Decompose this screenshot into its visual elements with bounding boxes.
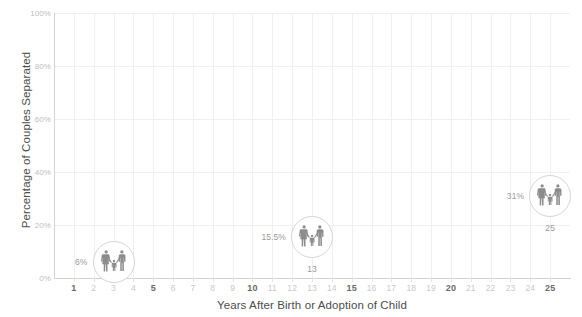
data-point-percentage-label: 15.5% xyxy=(261,232,286,242)
x-axis-tick-mark xyxy=(292,278,293,282)
gridline-vertical xyxy=(491,13,492,278)
gridline-vertical xyxy=(193,13,194,278)
x-axis-tick-mark xyxy=(352,278,353,282)
x-axis-tick-mark xyxy=(252,278,253,282)
x-axis-tick-mark xyxy=(451,278,452,282)
x-axis-tick-mark xyxy=(491,278,492,282)
x-axis-tick-mark xyxy=(411,278,412,282)
gridline-vertical xyxy=(372,13,373,278)
x-axis-tick-mark xyxy=(173,278,174,282)
gridline-vertical xyxy=(74,13,75,278)
gridline-vertical xyxy=(471,13,472,278)
scatter-chart: Percentage of Couples Separated 0%20%40%… xyxy=(0,0,582,317)
x-axis-tick-mark xyxy=(471,278,472,282)
data-point-marker[interactable] xyxy=(291,216,333,258)
family-icon xyxy=(99,248,128,277)
data-point-year-label: 13 xyxy=(307,264,317,274)
x-axis-tick-mark xyxy=(550,278,551,282)
x-axis-tick-label: 25 xyxy=(538,283,562,293)
gridline-vertical xyxy=(550,13,551,278)
x-axis-tick-mark xyxy=(530,278,531,282)
x-axis-tick-mark xyxy=(233,278,234,282)
gridline-vertical xyxy=(352,13,353,278)
y-axis-tick-labels: 0%20%40%60%80%100% xyxy=(0,0,51,317)
x-axis-tick-mark xyxy=(431,278,432,282)
gridline-vertical xyxy=(153,13,154,278)
data-point-year-label: 25 xyxy=(545,223,555,233)
gridline-vertical xyxy=(173,13,174,278)
family-icon xyxy=(536,181,565,210)
x-axis-tick-mark xyxy=(312,278,313,282)
y-axis-tick-label: 80% xyxy=(3,62,51,71)
x-axis-tick-mark xyxy=(133,278,134,282)
gridline-vertical xyxy=(133,13,134,278)
data-point-percentage-label: 31% xyxy=(507,191,524,201)
gridline-vertical xyxy=(233,13,234,278)
gridline-vertical xyxy=(451,13,452,278)
gridline-vertical xyxy=(510,13,511,278)
gridline-horizontal xyxy=(54,172,570,173)
gridline-vertical xyxy=(431,13,432,278)
gridline-vertical xyxy=(213,13,214,278)
x-axis-tick-mark xyxy=(74,278,75,282)
gridline-vertical xyxy=(411,13,412,278)
gridline-vertical xyxy=(94,13,95,278)
x-axis-tick-mark xyxy=(510,278,511,282)
y-axis-tick-label: 20% xyxy=(3,221,51,230)
gridline-vertical xyxy=(391,13,392,278)
x-axis-tick-mark xyxy=(332,278,333,282)
y-axis-tick-label: 40% xyxy=(3,168,51,177)
y-axis-tick-label: 100% xyxy=(3,9,51,18)
gridline-horizontal xyxy=(54,119,570,120)
data-point-marker[interactable] xyxy=(93,241,135,283)
family-icon xyxy=(298,222,327,251)
y-axis-tick-label: 0% xyxy=(3,274,51,283)
x-axis-tick-mark xyxy=(193,278,194,282)
x-axis-tick-mark xyxy=(391,278,392,282)
x-axis-tick-mark xyxy=(213,278,214,282)
gridline-vertical xyxy=(530,13,531,278)
chart-title xyxy=(0,0,582,4)
data-point-marker[interactable] xyxy=(529,175,571,217)
x-axis-title: Years After Birth or Adoption of Child xyxy=(54,299,570,311)
gridline-vertical xyxy=(252,13,253,278)
x-axis-tick-mark xyxy=(272,278,273,282)
gridline-horizontal xyxy=(54,13,570,14)
x-axis-tick-mark xyxy=(94,278,95,282)
gridline-horizontal xyxy=(54,66,570,67)
x-axis-tick-mark xyxy=(153,278,154,282)
x-axis-tick-mark xyxy=(372,278,373,282)
y-axis-tick-label: 60% xyxy=(3,115,51,124)
data-point-percentage-label: 6% xyxy=(75,257,88,267)
gridline-vertical xyxy=(114,13,115,278)
y-axis-line xyxy=(54,13,55,278)
